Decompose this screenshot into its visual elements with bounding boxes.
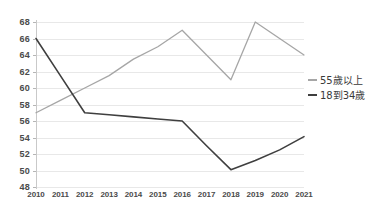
y-tick-mark [33, 171, 36, 172]
chart-legend: 55歲以上18到34歲 [308, 72, 388, 102]
legend-item-2[interactable]: 18到34歲 [308, 87, 388, 102]
legend-label: 18到34歲 [320, 87, 365, 102]
y-tick-mark [33, 88, 36, 89]
legend-line-icon [308, 94, 317, 96]
y-tick-mark [33, 55, 36, 56]
y-tick-mark [33, 72, 36, 73]
y-tick-mark [33, 22, 36, 23]
line-chart: 6866646260585654525048 20102011201220132… [0, 0, 388, 209]
y-tick-mark [33, 138, 36, 139]
legend-line-icon [308, 79, 317, 81]
y-tick-mark [33, 154, 36, 155]
series-line-2 [36, 39, 304, 170]
y-tick-mark [33, 39, 36, 40]
y-tick-mark [33, 187, 36, 188]
legend-item-1[interactable]: 55歲以上 [308, 72, 388, 87]
series-layer [0, 0, 388, 209]
legend-label: 55歲以上 [320, 72, 363, 87]
y-tick-mark [33, 105, 36, 106]
y-tick-mark [33, 121, 36, 122]
